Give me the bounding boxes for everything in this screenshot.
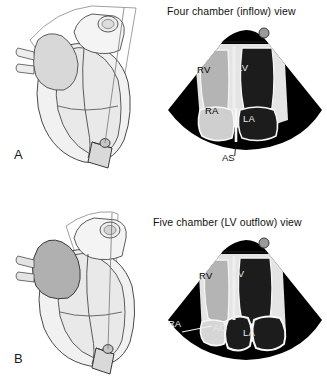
ultrasound-sector-five-chamber: [160, 234, 327, 366]
heart-vessel-lumen: [104, 225, 116, 234]
chamber-label-rv: RV: [199, 270, 212, 281]
sector-apex-marker-dot: [259, 238, 269, 248]
heart-with-scan-plane-b: [8, 204, 158, 384]
sector-apex-marker-dot: [259, 28, 269, 38]
heart-atrial-region: [32, 240, 80, 299]
annotation-label-as: AS: [222, 152, 235, 163]
annotation-label-ra: RA: [168, 318, 181, 329]
heart-vein-stub-upper: [16, 256, 34, 268]
chamber-label-la: LA: [243, 327, 255, 338]
heart-vein-stub-lower: [16, 64, 34, 74]
chamber-left-atrium: [252, 316, 285, 350]
ultrasound-sector-four-chamber: [160, 24, 327, 156]
view-title-a: Four chamber (inflow) view: [167, 5, 296, 17]
chamber-label-la: LA: [243, 113, 255, 124]
chamber-right-ventricle: [200, 50, 229, 113]
chamber-label-ao: AO: [213, 322, 227, 333]
heart-vessel-lumen: [102, 19, 114, 28]
transducer-probe: [92, 345, 114, 374]
panel-four-chamber: A Four chamber (inflow) view: [0, 0, 327, 194]
chamber-label-lv: LV: [237, 62, 248, 73]
chamber-left-ventricle: [240, 48, 274, 113]
panel-letter-b: B: [14, 351, 23, 366]
panel-five-chamber: B Five chamber (LV outflow) view: [0, 194, 327, 388]
chamber-label-ra: RA: [205, 105, 219, 116]
chamber-label-lv: LV: [233, 268, 244, 279]
transducer-probe: [88, 139, 112, 168]
heart-vein-stub-lower: [16, 272, 34, 282]
view-title-b: Five chamber (LV outflow) view: [153, 216, 302, 228]
heart-with-scan-plane-a: [8, 2, 158, 182]
heart-vein-stub-upper: [16, 48, 34, 60]
panel-letter-a: A: [14, 147, 23, 162]
chamber-label-rv: RV: [197, 64, 210, 75]
